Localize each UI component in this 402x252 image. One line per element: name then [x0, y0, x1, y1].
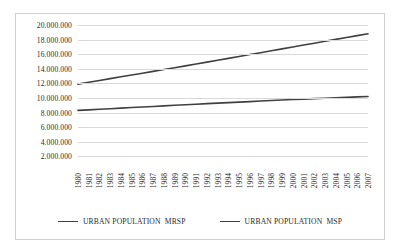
x-tick-label: 1998	[267, 173, 276, 188]
chart-container: 20.000.00018.000.00016.000.00014.000.000…	[15, 13, 385, 240]
x-tick-label: 2007	[364, 173, 373, 188]
x-axis: 1980198119821983198419851986198719881989…	[78, 173, 368, 215]
gridline	[78, 69, 368, 70]
x-tick-label: 2004	[332, 173, 341, 188]
x-tick-label: 2006	[353, 173, 362, 188]
gridline	[78, 40, 368, 41]
legend-label: URBAN POPULATION MSP	[245, 217, 342, 226]
legend-item-1[interactable]: URBAN POPULATION MRSP	[58, 217, 186, 226]
x-tick-label: 1985	[128, 173, 137, 188]
y-tick-label: 12.000.000	[37, 79, 72, 88]
x-tick-label: 1981	[85, 173, 94, 188]
x-tick-label: 1983	[106, 173, 115, 188]
x-tick-label: 1994	[224, 173, 233, 188]
x-tick-label: 1997	[257, 173, 266, 188]
x-tick-label: 1991	[192, 173, 201, 188]
x-tick-label: 2005	[343, 173, 352, 188]
x-tick-label: 2002	[310, 173, 319, 188]
y-tick-label: 18.000.000	[37, 35, 72, 44]
gridline	[78, 113, 368, 114]
x-tick-label: 1989	[171, 173, 180, 188]
legend-line-icon	[58, 221, 78, 223]
y-tick-label: 20.000.000	[37, 21, 72, 30]
gridline	[78, 25, 368, 26]
y-tick-label: 14.000.000	[37, 64, 72, 73]
x-tick-label: 2001	[300, 173, 309, 188]
x-tick-label: 1987	[149, 173, 158, 188]
x-tick-label: 1993	[214, 173, 223, 188]
gridline	[78, 98, 368, 99]
x-tick-label: 1988	[160, 173, 169, 188]
x-tick-label: 1984	[117, 173, 126, 188]
x-tick-label: 1982	[95, 173, 104, 188]
gridline	[78, 83, 368, 84]
y-tick-label: 2.000.000	[41, 152, 72, 161]
x-tick-label: 1980	[74, 173, 83, 188]
y-tick-label: 16.000.000	[37, 50, 72, 59]
y-tick-label: 4.000.000	[41, 137, 72, 146]
x-tick-label: 1996	[246, 173, 255, 188]
gridline	[78, 142, 368, 143]
gridline	[78, 54, 368, 55]
x-tick-label: 2003	[321, 173, 330, 188]
x-tick-label: 2000	[289, 173, 298, 188]
y-tick-label: 8.000.000	[41, 108, 72, 117]
legend-item-2[interactable]: URBAN POPULATION MSP	[220, 217, 342, 226]
y-tick-label: 6.000.000	[41, 123, 72, 132]
x-tick-label: 1999	[278, 173, 287, 188]
y-tick-label: 10.000.000	[37, 94, 72, 103]
plot-area	[78, 25, 368, 171]
series-line-1	[78, 34, 368, 84]
x-tick-label: 1986	[138, 173, 147, 188]
x-tick-label: 1995	[235, 173, 244, 188]
legend-label: URBAN POPULATION MRSP	[83, 217, 186, 226]
x-tick-label: 1990	[181, 173, 190, 188]
x-tick-label: 1992	[203, 173, 212, 188]
legend-line-icon	[220, 221, 240, 223]
chart-legend: URBAN POPULATION MRSPURBAN POPULATION MS…	[16, 217, 384, 226]
gridline	[78, 156, 368, 157]
gridline	[78, 127, 368, 128]
y-axis: 20.000.00018.000.00016.000.00014.000.000…	[16, 25, 76, 171]
